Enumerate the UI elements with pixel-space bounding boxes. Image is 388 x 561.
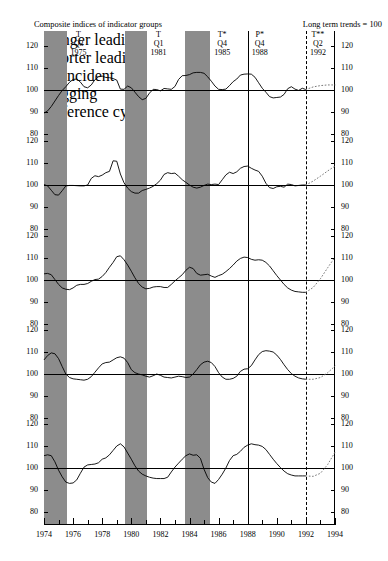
reference-line-100	[44, 374, 335, 375]
x-tick	[102, 518, 103, 525]
x-tick-label: 1992	[298, 530, 314, 539]
y-tick-label: 110	[0, 158, 38, 167]
y-tick	[331, 446, 335, 447]
x-tick-label: 1984	[182, 530, 198, 539]
y-tick-label: 100	[341, 85, 353, 94]
y-tick-label: 100	[0, 85, 38, 94]
reference-line-100	[44, 185, 335, 186]
y-tick	[44, 352, 48, 353]
y-tick	[44, 302, 48, 303]
y-tick-label: 90	[341, 297, 349, 306]
y-tick-label: 110	[341, 253, 353, 262]
y-tick	[44, 134, 48, 135]
x-tick-label: 1976	[65, 530, 81, 539]
x-tick	[262, 520, 263, 525]
y-tick	[44, 258, 48, 259]
y-tick	[331, 424, 335, 425]
x-tick	[233, 520, 234, 525]
y-tick	[44, 236, 48, 237]
y-tick	[331, 418, 335, 419]
y-tick	[44, 446, 48, 447]
y-tick-label: 100	[0, 369, 38, 378]
y-tick	[44, 324, 48, 325]
chart-title-left: Composite indices of indicator groups	[34, 20, 162, 29]
turning-point-line	[248, 31, 249, 525]
y-tick-label: 120	[341, 231, 353, 240]
y-tick-label: 90	[0, 297, 38, 306]
y-tick	[331, 258, 335, 259]
x-tick	[88, 520, 89, 525]
y-tick-label: 80	[341, 507, 349, 516]
chart-title-right: Long term trends = 100	[303, 20, 382, 29]
x-tick	[73, 518, 74, 525]
y-tick-label: 90	[341, 485, 349, 494]
x-tick	[320, 520, 321, 525]
y-tick-label: 90	[0, 202, 38, 211]
y-tick-label: 110	[0, 253, 38, 262]
y-tick-label: 120	[341, 325, 353, 334]
y-tick	[331, 207, 335, 208]
y-tick-label: 120	[341, 41, 353, 50]
reference-line-100	[44, 468, 335, 469]
x-tick-label: 1978	[94, 530, 110, 539]
y-tick	[331, 396, 335, 397]
y-tick	[331, 68, 335, 69]
y-tick-label: 120	[0, 231, 38, 240]
y-tick	[44, 207, 48, 208]
x-tick	[291, 520, 292, 525]
x-tick	[306, 518, 307, 525]
y-tick-label: 120	[0, 41, 38, 50]
x-tick	[131, 518, 132, 525]
y-tick	[331, 374, 335, 375]
y-tick	[44, 512, 48, 513]
y-tick	[44, 490, 48, 491]
y-tick	[331, 90, 335, 91]
y-tick	[331, 163, 335, 164]
turning-point-line	[306, 31, 307, 525]
x-tick-label: 1988	[240, 530, 256, 539]
y-tick-label: 110	[0, 347, 38, 356]
y-tick	[44, 418, 48, 419]
y-tick	[331, 112, 335, 113]
x-tick-label: 1974	[36, 530, 52, 539]
y-tick	[331, 324, 335, 325]
right-spine	[334, 31, 335, 525]
x-tick	[190, 518, 191, 525]
y-tick-label: 120	[0, 325, 38, 334]
reference-line-100	[44, 90, 335, 91]
x-tick	[277, 518, 278, 525]
x-tick	[160, 518, 161, 525]
x-tick-label: 1982	[152, 530, 168, 539]
y-tick	[331, 352, 335, 353]
y-tick	[331, 141, 335, 142]
y-tick-label: 110	[341, 441, 353, 450]
y-tick	[331, 512, 335, 513]
y-tick	[44, 280, 48, 281]
y-tick-label: 90	[0, 485, 38, 494]
y-tick	[331, 302, 335, 303]
plot-frame: Longer leadingShorter leadingCoincidentL…	[44, 31, 335, 525]
x-tick-label: 1994	[327, 530, 343, 539]
y-tick	[44, 185, 48, 186]
y-tick	[331, 229, 335, 230]
y-tick-label: 80	[0, 507, 38, 516]
y-tick-label: 120	[0, 419, 38, 428]
y-tick	[331, 185, 335, 186]
y-tick	[44, 112, 48, 113]
y-tick	[44, 46, 48, 47]
x-tick	[204, 520, 205, 525]
x-tick	[219, 518, 220, 525]
y-tick	[331, 46, 335, 47]
y-tick-label: 110	[341, 63, 353, 72]
y-tick-label: 110	[0, 63, 38, 72]
y-tick	[331, 134, 335, 135]
y-tick-label: 110	[341, 158, 353, 167]
x-tick	[248, 518, 249, 525]
y-tick-label: 120	[341, 419, 353, 428]
y-tick-label: 90	[341, 107, 349, 116]
y-tick-label: 120	[0, 136, 38, 145]
y-tick-label: 100	[341, 369, 353, 378]
y-tick	[331, 468, 335, 469]
y-tick-label: 100	[0, 180, 38, 189]
y-tick-label: 90	[341, 202, 349, 211]
